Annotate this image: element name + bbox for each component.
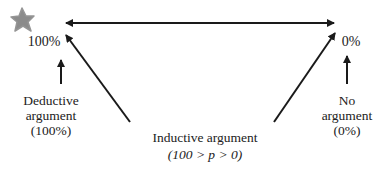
scale-left-label: 100%: [24, 34, 64, 49]
deductive-label: Deductive argument (100%): [12, 93, 90, 138]
no-argument-line1: No: [312, 93, 381, 108]
inductive-label: Inductive argument (100 > p > 0): [130, 130, 280, 162]
no-argument-label: No argument (0%): [312, 93, 381, 138]
deductive-line2: argument: [12, 108, 90, 123]
no-argument-line3: (0%): [312, 123, 381, 138]
star-icon: [11, 8, 34, 31]
deductive-line3: (100%): [12, 123, 90, 138]
scale-right-label: 0%: [336, 34, 366, 49]
deductive-line1: Deductive: [12, 93, 90, 108]
inductive-line1: Inductive argument: [130, 130, 280, 145]
no-argument-line2: argument: [312, 108, 381, 123]
inductive-range: (100 > p > 0): [130, 147, 280, 162]
